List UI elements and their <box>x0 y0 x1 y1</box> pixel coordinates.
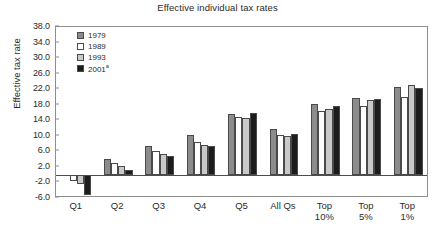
chart-title: Effective individual tax rates <box>0 2 435 13</box>
x-tick-line: 5% <box>345 211 386 222</box>
bar-group <box>305 27 346 196</box>
legend-item: 1993 <box>77 53 109 62</box>
legend-swatch-2001 <box>77 65 84 72</box>
x-tick-line: Top <box>387 200 428 211</box>
y-tick-label: 22.0 <box>18 83 50 93</box>
bar-Q3-1993 <box>160 154 167 175</box>
bar-Top10-1993 <box>325 109 332 175</box>
bar-group <box>346 27 387 196</box>
bar-Q1-2001a <box>84 175 91 196</box>
x-tick-line: Q3 <box>138 200 179 211</box>
bar-AllQs-1989 <box>277 135 284 175</box>
bar-AllQs-1993 <box>284 136 291 175</box>
legend-label: 2001a <box>88 63 109 74</box>
legend-item: 1989 <box>77 42 109 51</box>
bar-group <box>388 27 429 196</box>
y-tick-mark <box>55 103 59 104</box>
x-tick-line: 10% <box>304 211 345 222</box>
bar-Q3-1989 <box>152 151 159 174</box>
x-tick-label: Q2 <box>96 200 137 211</box>
x-tick-line: Top <box>304 200 345 211</box>
x-tick-line: Top <box>345 200 386 211</box>
x-tick-line: Q1 <box>55 200 96 211</box>
x-tick-line: Q5 <box>221 200 262 211</box>
bar-Q2-2001a <box>125 170 132 175</box>
x-tick-line: 1% <box>387 211 428 222</box>
legend-swatch-1979 <box>77 32 84 39</box>
bar-group <box>222 27 263 196</box>
bar-Top10-1989 <box>318 111 325 175</box>
legend-swatch-1993 <box>77 54 84 61</box>
legend-swatch-1989 <box>77 43 84 50</box>
y-tick-label: -6.0 <box>18 192 50 202</box>
legend-label: 1979 <box>88 31 106 40</box>
bar-Q1-1989 <box>70 175 77 181</box>
y-tick-mark <box>55 134 59 135</box>
x-tick-label: Q5 <box>221 200 262 211</box>
bar-Top1-2001a <box>415 88 422 175</box>
bar-AllQs-1979 <box>270 129 277 175</box>
bar-Top5-2001a <box>374 99 381 175</box>
y-tick-label: 30.0 <box>18 52 50 62</box>
y-tick-mark <box>55 41 59 42</box>
x-tick-label: Top5% <box>345 200 386 222</box>
bar-Q5-1989 <box>235 117 242 175</box>
y-tick-mark <box>55 119 59 120</box>
bar-Top1-1989 <box>401 97 408 175</box>
bar-Q2-1979 <box>104 159 111 175</box>
y-tick-label: 18.0 <box>18 99 50 109</box>
y-tick-mark <box>55 57 59 58</box>
x-tick-line: Q2 <box>96 200 137 211</box>
bar-Q5-1979 <box>228 114 235 175</box>
plot-area <box>55 26 428 197</box>
bar-Q5-2001a <box>250 113 257 174</box>
chart-figure: Effective individual tax rates Effective… <box>0 0 435 232</box>
bar-Top5-1989 <box>360 106 367 175</box>
bar-Q4-1979 <box>187 135 194 174</box>
y-tick-label: 26.0 <box>18 68 50 78</box>
y-tick-mark <box>55 88 59 89</box>
y-tick-label: 2.0 <box>18 161 50 171</box>
bar-Top10-2001a <box>333 106 340 175</box>
bar-Q4-2001a <box>208 146 215 175</box>
bar-Top5-1979 <box>352 98 359 175</box>
y-tick-mark <box>55 165 59 166</box>
bar-Q4-1989 <box>194 142 201 174</box>
bar-Q3-2001a <box>167 156 174 175</box>
x-tick-label: Q1 <box>55 200 96 211</box>
y-tick-mark <box>55 26 59 27</box>
bar-Top1-1993 <box>408 85 415 175</box>
x-tick-label: Top10% <box>304 200 345 222</box>
x-tick-label: Top1% <box>387 200 428 222</box>
legend-item: 1979 <box>77 31 109 40</box>
x-tick-line: Q4 <box>179 200 220 211</box>
x-tick-label: Q3 <box>138 200 179 211</box>
y-tick-label: 6.0 <box>18 145 50 155</box>
legend-label: 1989 <box>88 42 106 51</box>
legend-item: 2001a <box>77 64 109 73</box>
bar-Top10-1979 <box>311 104 318 175</box>
y-tick-mark <box>55 150 59 151</box>
y-tick-label: 34.0 <box>18 37 50 47</box>
y-tick-label: 38.0 <box>18 21 50 31</box>
bar-group <box>263 27 304 196</box>
x-tick-label: All Qs <box>262 200 303 211</box>
y-tick-label: 14.0 <box>18 114 50 124</box>
bar-group <box>139 27 180 196</box>
chart-legend: 1979198919932001a <box>77 31 109 75</box>
bar-Q3-1979 <box>145 146 152 175</box>
bar-group <box>180 27 221 196</box>
x-tick-label: Q4 <box>179 200 220 211</box>
x-tick-line: All Qs <box>262 200 303 211</box>
bar-Q1-1993 <box>77 175 84 184</box>
bar-Q2-1993 <box>118 166 125 175</box>
bar-Q2-1989 <box>111 163 118 174</box>
legend-label: 1993 <box>88 53 106 62</box>
legend-footnote-marker: a <box>106 63 109 69</box>
bar-Q4-1993 <box>201 145 208 175</box>
bar-AllQs-2001a <box>291 134 298 175</box>
bar-Q5-1993 <box>242 118 249 175</box>
y-tick-label: -2.0 <box>18 176 50 186</box>
y-tick-mark <box>55 72 59 73</box>
y-tick-mark <box>55 197 59 198</box>
